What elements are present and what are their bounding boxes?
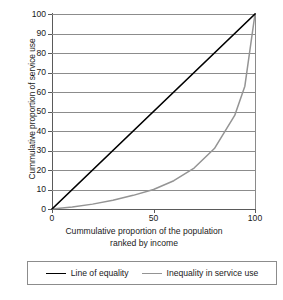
series-line-line-of-equality [52, 14, 255, 209]
y-tick-label: 80 [16, 49, 46, 58]
x-tick-label: 0 [32, 214, 72, 223]
chart-legend: Line of equality Inequality in service u… [27, 261, 277, 285]
y-tick-label: 0 [16, 205, 46, 214]
y-tick-label: 100 [16, 10, 46, 19]
caption-fragment [0, 291, 283, 300]
y-tick-label: 20 [16, 166, 46, 175]
x-tick-label: 50 [134, 214, 174, 223]
y-tick-label: 60 [16, 88, 46, 97]
y-tick-label: 70 [16, 68, 46, 77]
legend-swatch-icon-inequality [142, 273, 162, 274]
series-layer [52, 14, 255, 209]
plot-right-border [255, 13, 256, 210]
y-tick-label: 40 [16, 127, 46, 136]
x-tick-mark [255, 209, 256, 213]
y-tick-label: 30 [16, 146, 46, 155]
plot-area [52, 14, 255, 209]
y-tick-label: 50 [16, 107, 46, 116]
legend-swatch-icon-equality [46, 273, 66, 274]
legend-label-inequality-in-service-use: Inequality in service use [167, 268, 259, 278]
lorenz-curve-figure: Cummulative proportion of service use 01… [0, 0, 283, 300]
legend-item-inequality-in-service-use: Inequality in service use [142, 268, 259, 278]
x-axis-title-line-1: Cummulative proportion of the population [14, 226, 274, 238]
legend-label-line-of-equality: Line of equality [71, 268, 129, 278]
legend-item-line-of-equality: Line of equality [46, 268, 129, 278]
x-axis-title-line-2: ranked by income [14, 238, 274, 250]
x-tick-mark [154, 209, 155, 213]
x-tick-mark [52, 209, 53, 213]
x-axis-title: Cummulative proportion of the population… [14, 226, 274, 249]
x-tick-label: 100 [235, 214, 275, 223]
y-tick-label: 10 [16, 185, 46, 194]
y-tick-label: 90 [16, 29, 46, 38]
